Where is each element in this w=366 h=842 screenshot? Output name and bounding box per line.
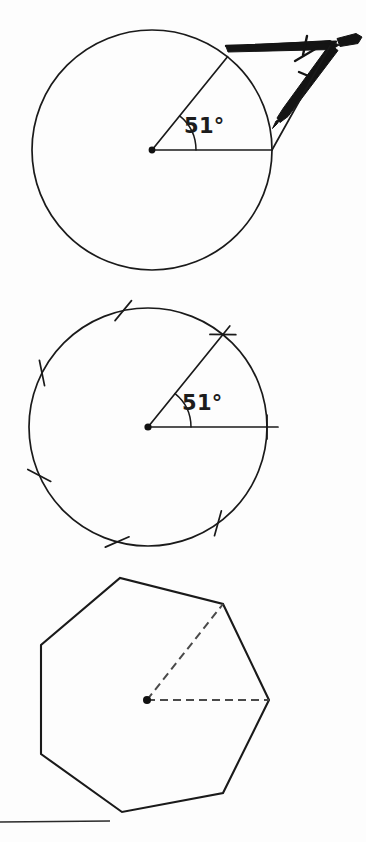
panel-stepped-circle: 51° <box>28 301 278 548</box>
step-tick-mark <box>115 301 131 321</box>
compass-icon <box>226 34 362 151</box>
panel-compass-angle: 51° <box>32 30 362 270</box>
angle-label-text: 51° <box>184 114 225 138</box>
center-point-dot <box>149 147 156 154</box>
angle-label-text: 51° <box>182 391 223 415</box>
step-tick-mark <box>105 537 129 547</box>
dashed-radius-upper-right <box>147 604 223 700</box>
step-tick-mark <box>214 511 221 536</box>
geometry-figure-root: 51° <box>0 0 366 842</box>
compass-pencil-tip <box>273 120 281 129</box>
step-tick-mark <box>28 469 51 481</box>
compass-knob <box>337 34 362 47</box>
center-point-dot <box>144 423 151 430</box>
center-point-dot <box>143 696 151 704</box>
bottom-rule-line <box>0 821 110 822</box>
panel-heptagon <box>41 578 269 812</box>
step-tick-mark <box>39 360 44 385</box>
compass-pencil-leg <box>277 44 338 123</box>
heptagon-outline <box>41 578 269 812</box>
figure-canvas: 51° <box>0 0 366 842</box>
compass-contact-line <box>272 46 330 150</box>
